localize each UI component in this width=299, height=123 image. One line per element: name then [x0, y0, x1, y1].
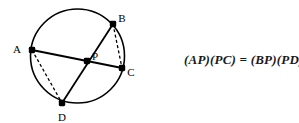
- point-label-b: B: [118, 12, 125, 24]
- point-label-d: D: [58, 111, 66, 123]
- chord-product-equation: (AP)(PC) = (BP)(PD): [184, 52, 299, 68]
- chord-a-d: [32, 50, 62, 103]
- point-marker-b: [110, 21, 116, 27]
- point-marker-c: [119, 65, 125, 71]
- point-label-p: P: [92, 50, 98, 62]
- point-marker-d: [59, 100, 65, 106]
- point-marker-p: [84, 58, 90, 64]
- point-label-c: C: [127, 66, 134, 78]
- point-marker-a: [29, 47, 35, 53]
- point-label-a: A: [13, 43, 21, 55]
- chord-a-c: [32, 50, 122, 68]
- intersecting-chords-figure: A B C D P (AP)(PC) = (BP)(PD): [0, 0, 299, 123]
